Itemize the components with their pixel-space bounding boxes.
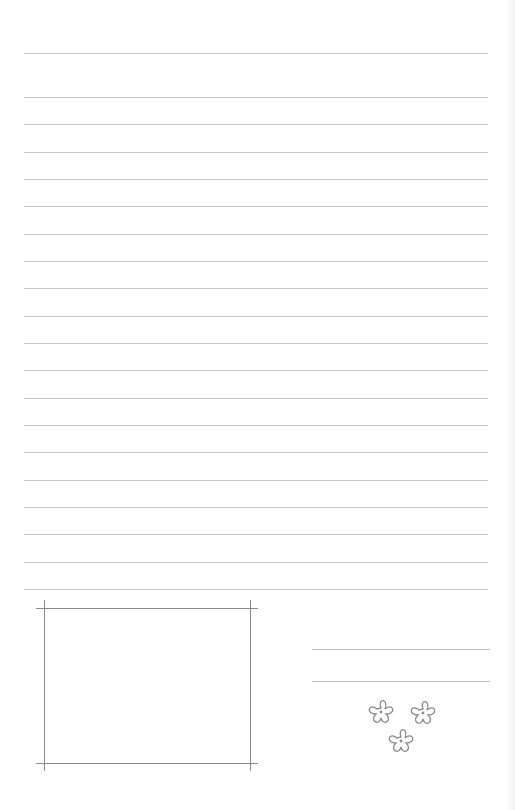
frame-bottom-line [36, 763, 258, 764]
ruled-line [24, 234, 488, 235]
ruled-line [24, 124, 488, 125]
ruled-line [24, 589, 488, 590]
ruled-line [24, 534, 488, 535]
page-edge-shadow [505, 0, 515, 810]
frame-left-line [44, 600, 45, 771]
ruled-line [24, 343, 488, 344]
flower-decoration [360, 695, 440, 760]
ruled-line [24, 206, 488, 207]
ruled-line [24, 507, 488, 508]
frame-right-line [250, 600, 251, 771]
ruled-line [24, 97, 488, 98]
ruled-line [24, 152, 488, 153]
flower-icon [389, 730, 412, 752]
signature-line [312, 649, 490, 650]
ruled-line [24, 480, 488, 481]
flower-icon [369, 701, 392, 723]
ruled-line [24, 179, 488, 180]
ruled-line [24, 425, 488, 426]
ruled-line [24, 316, 488, 317]
ruled-line [24, 53, 488, 54]
ruled-line [24, 398, 488, 399]
ruled-line [24, 452, 488, 453]
ruled-line [24, 261, 488, 262]
frame-top-line [36, 608, 258, 609]
signature-line [312, 681, 490, 682]
flower-icon [411, 702, 434, 724]
ruled-line [24, 288, 488, 289]
ruled-line [24, 562, 488, 563]
ruled-line [24, 370, 488, 371]
